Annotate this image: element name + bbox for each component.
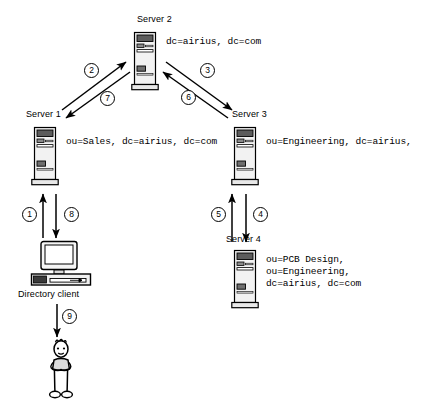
dn-text-server4-line3: dc=airius, dc=com xyxy=(266,278,361,290)
diagram-canvas: Server 2 Server 1 Server 3 Server 4 Dire… xyxy=(0,0,426,408)
dn-text-server4-line1: ou=PCB Design, xyxy=(266,254,344,266)
step-badge-4: 4 xyxy=(253,207,268,222)
dn-text-server1: ou=Sales, dc=airius, dc=com xyxy=(66,136,217,148)
step-badge-6: 6 xyxy=(181,90,196,105)
arrow-step-3 xyxy=(166,62,232,110)
server-tower-icon-server1 xyxy=(32,128,58,185)
step-badge-5: 5 xyxy=(211,207,226,222)
node-label-server1: Server 1 xyxy=(26,109,61,119)
server-tower-icon-server3 xyxy=(232,128,258,185)
step-badge-8: 8 xyxy=(64,207,79,222)
step-badge-3: 3 xyxy=(200,63,215,78)
node-label-directory-client: Directory client xyxy=(18,289,79,299)
dn-text-server3: ou=Engineering, dc=airius, xyxy=(266,136,412,148)
node-label-server3: Server 3 xyxy=(232,109,267,119)
arrow-step-7 xyxy=(66,72,130,118)
node-label-server4: Server 4 xyxy=(226,234,261,244)
server-tower-icon-server2 xyxy=(132,33,158,90)
server-tower-icon-server4 xyxy=(232,251,258,308)
step-badge-9: 9 xyxy=(62,309,77,324)
step-badge-7: 7 xyxy=(100,91,115,106)
desktop-computer-icon-client xyxy=(32,242,91,286)
dn-text-server2: dc=airius, dc=com xyxy=(166,36,261,48)
dn-text-server4-line2: ou=Engineering, xyxy=(266,266,350,278)
node-label-server2: Server 2 xyxy=(137,14,172,24)
step-badge-2: 2 xyxy=(84,63,99,78)
step-badge-1: 1 xyxy=(22,207,37,222)
diagram-graphics xyxy=(0,0,426,408)
person-stick-figure-icon xyxy=(50,339,73,397)
